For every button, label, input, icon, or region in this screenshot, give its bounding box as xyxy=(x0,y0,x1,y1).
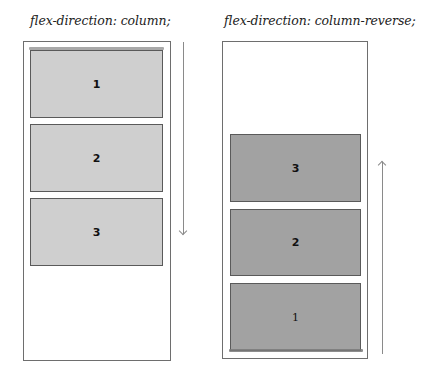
flex-item-1: 1 xyxy=(230,283,361,351)
column-label: flex-direction: column; xyxy=(30,13,171,28)
flex-item-3: 3 xyxy=(30,198,163,266)
column-reverse-label: flex-direction: column-reverse; xyxy=(224,13,416,28)
flex-item-2: 2 xyxy=(230,209,361,276)
flex-item-3: 3 xyxy=(230,134,361,202)
main-start-edge xyxy=(229,349,363,352)
item-number: 2 xyxy=(292,236,300,249)
item-number: 2 xyxy=(93,152,101,165)
flex-item-1: 1 xyxy=(30,50,163,118)
item-number: 3 xyxy=(292,162,300,175)
item-number: 1 xyxy=(292,311,299,324)
item-number: 3 xyxy=(93,226,101,239)
item-number: 1 xyxy=(93,78,101,91)
flex-item-2: 2 xyxy=(30,124,163,192)
